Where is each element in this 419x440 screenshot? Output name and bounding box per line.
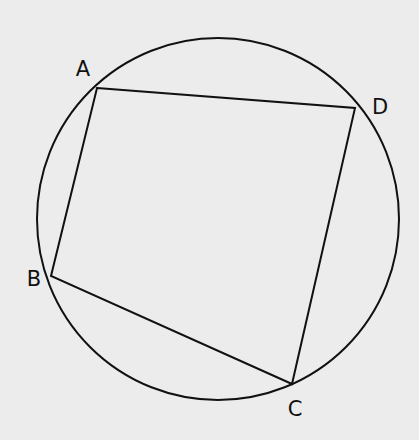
vertex-label-a: A	[76, 57, 91, 81]
vertex-label-b: B	[27, 267, 41, 291]
background	[0, 0, 419, 440]
cyclic-quadrilateral-diagram: A D C B	[0, 0, 419, 440]
vertex-label-d: D	[372, 95, 388, 119]
vertex-label-c: C	[288, 397, 303, 421]
